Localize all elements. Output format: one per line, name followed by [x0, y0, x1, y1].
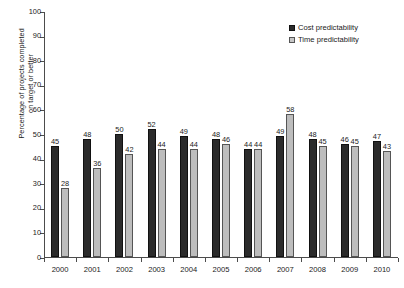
- plot-area: 0102030405060708090100 45284836504252444…: [44, 12, 398, 258]
- x-label-2006: 2006: [237, 265, 269, 274]
- x-label-2007: 2007: [269, 265, 301, 274]
- x-axis-line: [44, 257, 398, 258]
- y-tick-label: 50: [33, 130, 41, 139]
- bar-value-label: 52: [145, 120, 159, 129]
- bar-value-label: 45: [348, 137, 362, 146]
- bar-2000-cost: [51, 146, 59, 257]
- bar-value-label: 44: [187, 140, 201, 149]
- bar-2003-time: [158, 149, 166, 257]
- bar-value-label: 44: [155, 140, 169, 149]
- bar-2010-time: [383, 151, 391, 257]
- bar-value-label: 36: [90, 159, 104, 168]
- bar-value-label: 45: [48, 137, 62, 146]
- x-label-2008: 2008: [301, 265, 333, 274]
- bar-2005-time: [222, 144, 230, 257]
- bar-2008-cost: [309, 139, 317, 257]
- y-tick-label: 10: [33, 228, 41, 237]
- y-tick-label: 70: [33, 80, 41, 89]
- x-tick-mark: [173, 258, 174, 262]
- bar-2008-time: [319, 146, 327, 257]
- y-tick-label: 0: [37, 253, 41, 262]
- x-tick-mark: [237, 258, 238, 262]
- bar-value-label: 50: [112, 125, 126, 134]
- bar-2009-time: [351, 146, 359, 257]
- bar-value-label: 49: [177, 127, 191, 136]
- bar-2006-time: [254, 149, 262, 257]
- bar-value-label: 49: [273, 127, 287, 136]
- y-axis-line: [44, 12, 45, 258]
- bar-2007-time: [286, 114, 294, 257]
- legend-label: Cost predictability: [298, 22, 358, 33]
- legend-label: Time predictability: [298, 34, 359, 45]
- bar-2004-cost: [180, 136, 188, 257]
- bar-value-label: 45: [316, 137, 330, 146]
- x-tick-mark: [76, 258, 77, 262]
- x-label-2000: 2000: [44, 265, 76, 274]
- x-label-2002: 2002: [108, 265, 140, 274]
- legend-item-cost: Cost predictability: [289, 22, 359, 33]
- bar-2006-cost: [244, 149, 252, 257]
- y-tick-label: 20: [33, 203, 41, 212]
- bar-2004-time: [190, 149, 198, 257]
- bar-value-label: 46: [219, 135, 233, 144]
- bar-value-label: 44: [251, 140, 265, 149]
- x-label-2005: 2005: [205, 265, 237, 274]
- bar-2001-cost: [83, 139, 91, 257]
- chart-legend: Cost predictabilityTime predictability: [289, 22, 359, 46]
- legend-swatch-time-icon: [289, 37, 295, 43]
- x-tick-mark: [301, 258, 302, 262]
- x-tick-mark: [205, 258, 206, 262]
- x-tick-mark: [269, 258, 270, 262]
- y-tick-label: 90: [33, 31, 41, 40]
- bar-2010-cost: [373, 141, 381, 257]
- x-tick-mark: [334, 258, 335, 262]
- bar-2007-cost: [276, 136, 284, 257]
- bar-chart: Percentage of projects completed on targ…: [0, 0, 404, 288]
- y-tick-label: 40: [33, 154, 41, 163]
- bar-2001-time: [93, 168, 101, 257]
- bar-2000-time: [61, 188, 69, 257]
- y-tick-label: 80: [33, 56, 41, 65]
- x-label-2001: 2001: [76, 265, 108, 274]
- x-tick-mark: [44, 258, 45, 262]
- x-label-2009: 2009: [334, 265, 366, 274]
- y-tick-label: 100: [29, 7, 41, 16]
- x-tick-mark: [366, 258, 367, 262]
- x-label-2003: 2003: [141, 265, 173, 274]
- bar-value-label: 28: [58, 179, 72, 188]
- y-tick-label: 60: [33, 105, 41, 114]
- x-tick-mark: [398, 258, 399, 262]
- bar-2002-time: [125, 154, 133, 257]
- bar-value-label: 58: [283, 105, 297, 114]
- bar-value-label: 43: [380, 142, 394, 151]
- bar-2009-cost: [341, 144, 349, 257]
- x-tick-mark: [141, 258, 142, 262]
- bar-value-label: 47: [370, 132, 384, 141]
- y-tick-label: 30: [33, 179, 41, 188]
- legend-swatch-cost-icon: [289, 25, 295, 31]
- bar-2005-cost: [212, 139, 220, 257]
- bar-value-label: 42: [122, 145, 136, 154]
- bar-value-label: 48: [80, 130, 94, 139]
- x-label-2004: 2004: [173, 265, 205, 274]
- x-label-2010: 2010: [366, 265, 398, 274]
- x-tick-mark: [108, 258, 109, 262]
- legend-item-time: Time predictability: [289, 34, 359, 45]
